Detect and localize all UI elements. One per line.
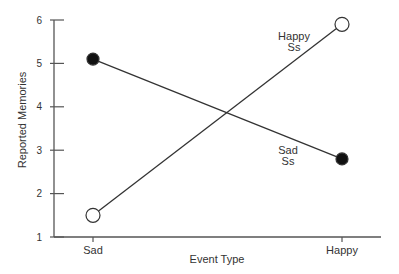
x-tick-label-happy: Happy (326, 244, 358, 256)
x-axis-label: Event Type (190, 253, 245, 265)
happy-ss-label-line2: Ss (288, 41, 301, 53)
open-circle-marker (86, 208, 100, 222)
y-tick-label: 5 (36, 58, 42, 69)
y-tick-label: 6 (36, 15, 42, 26)
line-chart: 123456 SadHappy Reported Memories Event … (0, 0, 399, 274)
series-line-sad-ss (93, 59, 342, 159)
y-axis-ticks: 123456 (36, 15, 64, 243)
y-tick-label: 4 (36, 101, 42, 112)
y-tick-label: 2 (36, 188, 42, 199)
open-circle-marker (335, 17, 349, 31)
x-tick-label-sad: Sad (83, 244, 103, 256)
sad-ss-label-line2: Ss (282, 155, 295, 167)
filled-circle-marker (336, 153, 348, 165)
y-tick-label: 1 (36, 232, 42, 243)
axes (54, 20, 381, 237)
filled-circle-marker (87, 53, 99, 65)
y-axis-label: Reported Memories (16, 71, 28, 168)
y-tick-label: 3 (36, 145, 42, 156)
series-line-happy-ss (93, 24, 342, 215)
series-group (86, 17, 349, 222)
